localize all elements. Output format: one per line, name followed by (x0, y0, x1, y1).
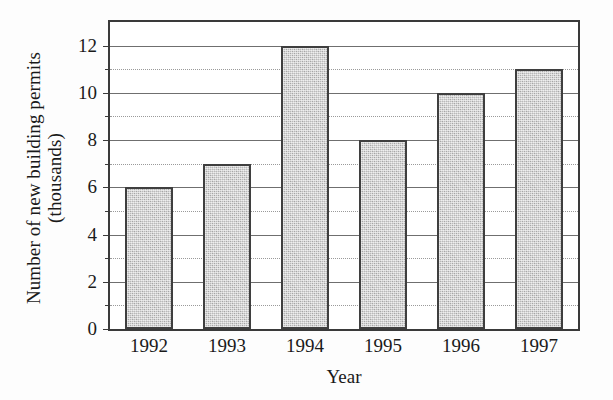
bar-1993 (203, 164, 251, 329)
y-axis-tick-major (103, 187, 110, 188)
gridline-major (110, 46, 578, 47)
y-axis-tick-minor (105, 164, 110, 165)
gridline-minor (110, 305, 578, 306)
plot-inner (110, 22, 578, 329)
y-axis-tick-label: 10 (78, 83, 97, 102)
bar-1995 (359, 140, 407, 329)
y-axis-tick-major (103, 235, 110, 236)
y-axis-tick-minor (105, 211, 110, 212)
y-axis-tick-label: 2 (88, 272, 98, 291)
x-axis-tick-label-1996: 1996 (421, 336, 501, 355)
x-axis-tick-label-1995: 1995 (343, 336, 423, 355)
x-axis-tick-label-1992: 1992 (109, 336, 189, 355)
bar-1997 (515, 69, 563, 329)
y-axis-title-line-2: (thousands) (44, 133, 65, 223)
gridline-minor (110, 164, 578, 165)
gridline-minor (110, 116, 578, 117)
y-axis-tick-minor (105, 258, 110, 259)
y-axis-tick-major (103, 93, 110, 94)
bar-1994 (281, 46, 329, 329)
gridline-major (110, 235, 578, 236)
x-axis-tick-label-1993: 1993 (187, 336, 267, 355)
y-axis-tick-minor (105, 69, 110, 70)
y-axis-tick-label: 0 (88, 319, 98, 338)
x-axis-tick-label-1997: 1997 (499, 336, 579, 355)
x-axis-title: Year (108, 366, 580, 388)
y-axis-tick-major (103, 282, 110, 283)
bar-1996 (437, 93, 485, 329)
gridline-minor (110, 69, 578, 70)
y-axis-tick-label: 4 (88, 225, 98, 244)
y-axis-tick-label: 8 (88, 130, 98, 149)
gridline-major (110, 93, 578, 94)
y-axis-tick-minor (105, 116, 110, 117)
y-axis-tick-label: 12 (78, 36, 97, 55)
y-axis-title: Number of new building permits (thousand… (18, 8, 70, 348)
y-axis-tick-major (103, 46, 110, 47)
y-axis-tick-major (103, 140, 110, 141)
x-axis-tick-label-1994: 1994 (265, 336, 345, 355)
y-axis-tick-label: 6 (88, 177, 98, 196)
gridline-minor (110, 211, 578, 212)
gridline-minor (110, 258, 578, 259)
y-axis-tick-major (103, 329, 110, 330)
y-axis-title-line-1: Number of new building permits (23, 52, 44, 304)
bar-1992 (125, 187, 173, 329)
gridline-major (110, 140, 578, 141)
plot-area (108, 20, 580, 331)
y-axis-tick-minor (105, 305, 110, 306)
bar-chart-figure: Number of new building permits (thousand… (0, 0, 613, 400)
gridline-major (110, 187, 578, 188)
gridline-major (110, 282, 578, 283)
